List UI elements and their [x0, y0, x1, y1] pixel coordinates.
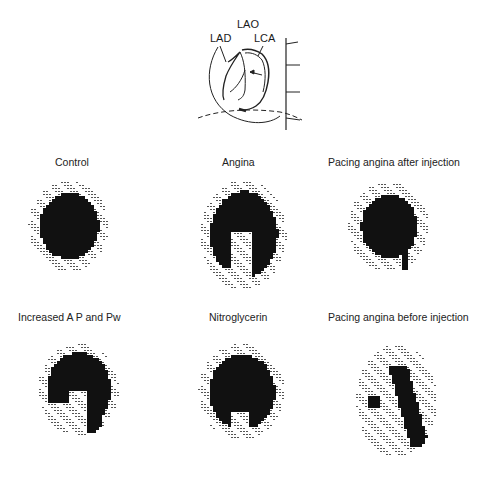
scan-halftone-pixel — [34, 227, 36, 228]
scan-halftone-pixel — [357, 232, 359, 233]
scan-halftone-pixel — [273, 206, 275, 207]
scan-dense-pixel — [249, 220, 252, 223]
scan-halftone-pixel — [204, 215, 206, 216]
scan-halftone-pixel — [431, 424, 433, 425]
scan-halftone-pixel — [395, 346, 397, 347]
scan-dense-pixel — [384, 201, 387, 204]
scan-dense-pixel — [270, 217, 273, 220]
scan-halftone-pixel — [234, 350, 236, 351]
scan-dense-pixel — [392, 378, 395, 381]
scan-halftone-pixel — [414, 199, 416, 200]
scan-dense-pixel — [258, 379, 261, 382]
scan-halftone-pixel — [371, 376, 373, 377]
scan-halftone-pixel — [390, 268, 392, 269]
scan-dense-pixel — [255, 199, 258, 202]
scan-dense-pixel — [225, 373, 228, 376]
scan-dense-pixel — [90, 424, 93, 427]
scan-halftone-pixel — [243, 284, 245, 285]
scan-dense-pixel — [70, 250, 73, 253]
scan-halftone-pixel — [75, 410, 77, 411]
scan-dense-pixel — [404, 384, 407, 387]
scan-halftone-pixel — [267, 203, 269, 204]
scan-halftone-pixel — [357, 220, 359, 221]
scan-dense-pixel — [87, 376, 90, 379]
scan-halftone-pixel — [279, 230, 281, 231]
scan-dense-pixel — [404, 408, 407, 411]
scan-dense-pixel — [261, 382, 264, 385]
scan-halftone-pixel — [234, 182, 236, 183]
scan-dense-pixel — [246, 373, 249, 376]
scan-dense-pixel — [54, 400, 57, 403]
scan-halftone-pixel — [419, 409, 421, 410]
scan-dense-pixel — [270, 253, 273, 256]
scan-dense-pixel — [243, 205, 246, 208]
scan-dense-pixel — [96, 415, 99, 418]
scan-halftone-pixel — [405, 196, 407, 197]
scan-halftone-pixel — [422, 415, 424, 416]
scan-dense-pixel — [69, 358, 72, 361]
scan-dense-pixel — [222, 250, 225, 253]
scan-dense-pixel — [58, 223, 61, 226]
scan-dense-pixel — [57, 376, 60, 379]
scan-halftone-pixel — [225, 356, 227, 357]
scan-dense-pixel — [88, 232, 91, 235]
scan-halftone-pixel — [39, 395, 41, 396]
scan-dense-pixel — [273, 385, 276, 388]
scan-halftone-pixel — [255, 281, 257, 282]
scan-dense-pixel — [381, 243, 384, 246]
scan-dense-pixel — [381, 216, 384, 219]
scan-dense-pixel — [216, 379, 219, 382]
scan-dense-pixel — [87, 424, 90, 427]
scan-dense-pixel — [249, 193, 252, 196]
scan-halftone-pixel — [279, 212, 281, 213]
scan-halftone-pixel — [279, 260, 281, 261]
scan-halftone-pixel — [389, 424, 391, 425]
scan-dense-pixel — [249, 415, 252, 418]
scan-halftone-pixel — [114, 380, 116, 381]
scan-image-increased-ap-pw — [30, 340, 125, 440]
scan-dense-pixel — [261, 202, 264, 205]
scan-dense-pixel — [67, 250, 70, 253]
scan-halftone-pixel — [276, 224, 278, 225]
scan-dense-pixel — [246, 217, 249, 220]
scan-dense-pixel — [267, 229, 270, 232]
scan-dense-pixel — [228, 235, 231, 238]
scan-dense-pixel — [246, 400, 249, 403]
scan-halftone-pixel — [425, 373, 427, 374]
scan-dense-pixel — [57, 391, 60, 394]
scan-halftone-pixel — [354, 250, 356, 251]
scan-halftone-pixel — [249, 263, 251, 264]
scan-dense-pixel — [243, 403, 246, 406]
scan-halftone-pixel — [365, 406, 367, 407]
scan-dense-pixel — [404, 414, 407, 417]
scan-halftone-pixel — [365, 373, 367, 374]
scan-dense-pixel — [261, 370, 264, 373]
scan-halftone-pixel — [213, 269, 215, 270]
scan-dense-pixel — [399, 210, 402, 213]
scan-halftone-pixel — [383, 361, 385, 362]
scan-halftone-pixel — [78, 428, 80, 429]
scan-halftone-pixel — [207, 395, 209, 396]
scan-halftone-pixel — [213, 266, 215, 267]
scan-halftone-pixel — [405, 193, 407, 194]
scan-dense-pixel — [246, 202, 249, 205]
scan-dense-pixel — [99, 415, 102, 418]
scan-dense-pixel — [88, 241, 91, 244]
scan-dense-pixel — [252, 388, 255, 391]
scan-halftone-pixel — [407, 448, 409, 449]
scan-dense-pixel — [237, 382, 240, 385]
scan-dense-pixel — [270, 394, 273, 397]
scan-dense-pixel — [228, 370, 231, 373]
scan-halftone-pixel — [54, 419, 56, 420]
scan-dense-pixel — [75, 358, 78, 361]
scan-dense-pixel — [411, 231, 414, 234]
scan-halftone-pixel — [362, 415, 364, 416]
scan-dense-pixel — [419, 423, 422, 426]
scan-dense-pixel — [225, 208, 228, 211]
scan-dense-pixel — [249, 223, 252, 226]
scan-halftone-pixel — [81, 344, 83, 345]
scan-halftone-pixel — [417, 220, 419, 221]
scan-halftone-pixel — [237, 281, 239, 282]
scan-halftone-pixel — [96, 356, 98, 357]
scan-halftone-pixel — [362, 385, 364, 386]
